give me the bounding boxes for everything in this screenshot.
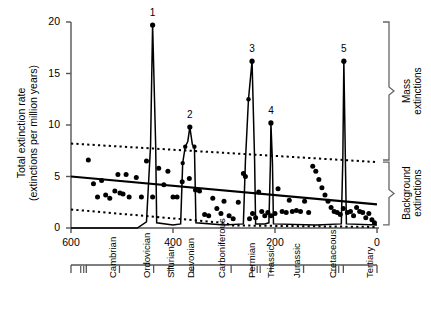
period-label: Ordovician — [141, 233, 152, 278]
upper-confidence-band — [71, 144, 377, 163]
axes — [71, 22, 379, 228]
peak-label: 5 — [337, 43, 351, 54]
peak-label: 3 — [245, 43, 259, 54]
bracket-label-line1: Background — [400, 167, 412, 220]
period-label: Triassic — [265, 246, 276, 278]
period-label: Silurian — [165, 246, 176, 278]
period-label: Permian — [246, 243, 257, 278]
period-label: Cretaceous — [327, 229, 338, 278]
y-tick-label: 0 — [34, 221, 60, 233]
peak-label: 1 — [146, 7, 160, 18]
y-tick-label: 5 — [34, 170, 60, 182]
y-tick-label: 15 — [34, 67, 60, 79]
x-tick-label: 0 — [357, 236, 397, 248]
extinction-rate-chart: Total extinction rate (extinctions per m… — [0, 0, 431, 331]
mass-extinctions-label: Massextinctions — [399, 22, 425, 160]
peak-label: 4 — [264, 105, 278, 116]
period-label: Cambrian — [107, 237, 118, 278]
period-label: Tertiary — [364, 247, 375, 278]
peak-label: 2 — [183, 109, 197, 120]
extinction-rate-curve — [71, 25, 377, 228]
period-label: Carboniferous — [216, 218, 227, 278]
plot-area — [0, 0, 431, 331]
bracket-label-line2: extinctions — [412, 67, 424, 114]
period-label: Devonian — [185, 238, 196, 278]
bracket-label-line1: Mass — [400, 79, 412, 103]
y-tick-label: 20 — [34, 15, 60, 27]
background-extinctions-bracket — [383, 162, 394, 225]
background-extinctions-label: Backgroundextinctions — [399, 162, 425, 225]
period-label: Jurassic — [291, 243, 302, 278]
mass-extinctions-bracket — [383, 22, 394, 160]
x-tick-label: 600 — [51, 236, 91, 248]
bracket-label-line2: extinctions — [412, 170, 424, 217]
y-tick-label: 10 — [34, 118, 60, 130]
